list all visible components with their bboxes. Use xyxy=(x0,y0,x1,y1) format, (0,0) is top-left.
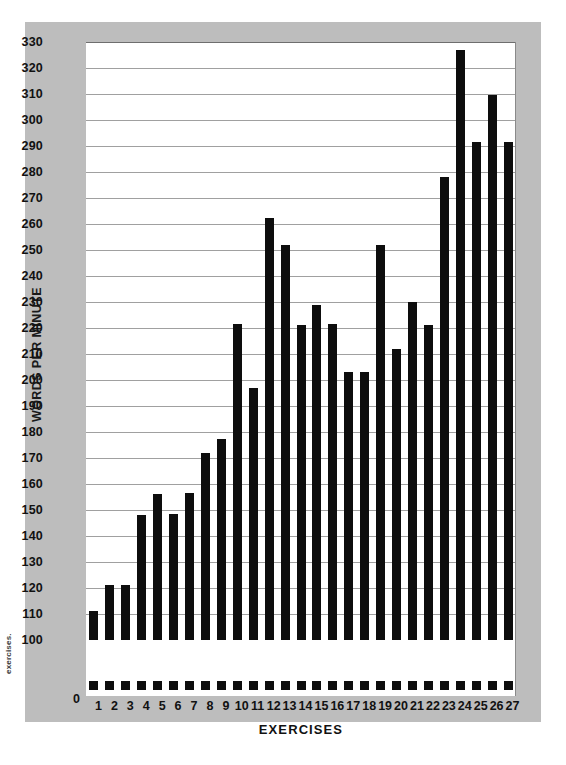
plot-area xyxy=(86,42,516,696)
y-tick-label-120: 120 xyxy=(3,582,43,594)
bar-baseline-stub xyxy=(137,681,146,690)
bar xyxy=(185,493,194,640)
bar xyxy=(440,177,449,640)
bar-baseline-stub xyxy=(376,681,385,690)
bar-baseline-stub xyxy=(105,681,114,690)
bar xyxy=(312,305,321,640)
y-tick-label-190: 190 xyxy=(3,400,43,412)
gridline-280 xyxy=(86,172,515,173)
gridline-250 xyxy=(86,250,515,251)
y-tick-label-220: 220 xyxy=(3,322,43,334)
y-tick-label-280: 280 xyxy=(3,166,43,178)
y-tick-label-150: 150 xyxy=(3,504,43,516)
bar xyxy=(424,325,433,640)
y-tick-label-240: 240 xyxy=(3,270,43,282)
bar-baseline-stub xyxy=(153,681,162,690)
bar-baseline-stub xyxy=(121,681,130,690)
y-tick-label-320: 320 xyxy=(3,62,43,74)
bar-baseline-stub xyxy=(265,681,274,690)
bar xyxy=(233,324,242,640)
bar xyxy=(201,453,210,640)
bar xyxy=(456,50,465,640)
gridline-300 xyxy=(86,120,515,121)
y-tick-label-230: 230 xyxy=(3,296,43,308)
bar xyxy=(281,245,290,640)
bar xyxy=(217,439,226,641)
bar-baseline-stub xyxy=(169,681,178,690)
gridline-240 xyxy=(86,276,515,277)
y-tick-label-290: 290 xyxy=(3,140,43,152)
gridline-290 xyxy=(86,146,515,147)
bar xyxy=(105,585,114,640)
gridline-310 xyxy=(86,94,515,95)
bar-baseline-stub xyxy=(472,681,481,690)
bar xyxy=(392,349,401,640)
bar-baseline-stub xyxy=(281,681,290,690)
y-tick-label-100: 100 xyxy=(3,634,43,646)
bar-baseline-stub xyxy=(328,681,337,690)
y-tick-label-110: 110 xyxy=(3,608,43,620)
y-tick-label-330: 330 xyxy=(3,36,43,48)
bar-baseline-stub xyxy=(456,681,465,690)
y-tick-label-300: 300 xyxy=(3,114,43,126)
bar-baseline-stub xyxy=(233,681,242,690)
bar xyxy=(249,388,258,640)
gridline-230 xyxy=(86,302,515,303)
y-tick-label-310: 310 xyxy=(3,88,43,100)
bar xyxy=(360,372,369,640)
y-axis-zero-label: 0 xyxy=(46,692,80,706)
y-tick-label-270: 270 xyxy=(3,192,43,204)
bar-baseline-stub xyxy=(89,681,98,690)
bar-baseline-stub xyxy=(217,681,226,690)
bar xyxy=(328,324,337,640)
y-tick-label-250: 250 xyxy=(3,244,43,256)
gridline-260 xyxy=(86,224,515,225)
y-tick-label-140: 140 xyxy=(3,530,43,542)
y-tick-label-210: 210 xyxy=(3,348,43,360)
bar xyxy=(89,611,98,640)
bar-baseline-stub xyxy=(249,681,258,690)
y-tick-label-180: 180 xyxy=(3,426,43,438)
y-tick-label-200: 200 xyxy=(3,374,43,386)
bar xyxy=(153,494,162,640)
bar-baseline-stub xyxy=(424,681,433,690)
bar-baseline-stub xyxy=(201,681,210,690)
bar-baseline-stub xyxy=(408,681,417,690)
bar xyxy=(169,514,178,640)
bar-baseline-stub xyxy=(344,681,353,690)
bar-baseline-stub xyxy=(312,681,321,690)
bar xyxy=(265,218,274,641)
bar-baseline-stub xyxy=(297,681,306,690)
y-tick-label-170: 170 xyxy=(3,452,43,464)
y-tick-label-160: 160 xyxy=(3,478,43,490)
y-tick-label-260: 260 xyxy=(3,218,43,230)
bar xyxy=(137,515,146,640)
y-tick-label-130: 130 xyxy=(3,556,43,568)
bar-baseline-stub xyxy=(440,681,449,690)
gridline-330 xyxy=(86,42,515,43)
bar-baseline-stub xyxy=(360,681,369,690)
bar xyxy=(297,325,306,640)
bar-baseline-stub xyxy=(504,681,513,690)
x-tick-label-27: 27 xyxy=(503,700,523,713)
bar xyxy=(408,302,417,640)
bar xyxy=(344,372,353,640)
gridline-270 xyxy=(86,198,515,199)
bar xyxy=(504,142,513,640)
bar xyxy=(488,95,497,640)
x-axis-title: EXERCISES xyxy=(86,722,516,737)
bar-baseline-stub xyxy=(392,681,401,690)
bar xyxy=(121,585,130,640)
bar xyxy=(472,142,481,640)
bar-baseline-stub xyxy=(488,681,497,690)
bar-baseline-stub xyxy=(185,681,194,690)
gridline-320 xyxy=(86,68,515,69)
bar xyxy=(376,245,385,640)
